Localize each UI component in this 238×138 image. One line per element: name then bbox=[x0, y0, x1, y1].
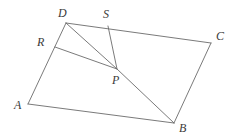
vertex-label-P: P bbox=[112, 74, 119, 86]
segment-cevian-RP bbox=[55, 47, 117, 69]
segment-side-BC bbox=[174, 43, 211, 123]
vertex-label-D: D bbox=[58, 7, 67, 19]
quadrilateral-sides bbox=[28, 23, 211, 123]
segment-cevian-PB bbox=[117, 69, 174, 123]
segment-side-AB bbox=[28, 104, 174, 123]
vertex-label-A: A bbox=[14, 99, 21, 111]
geometry-canvas bbox=[0, 0, 238, 138]
vertex-label-S: S bbox=[103, 8, 109, 20]
segment-cevian-DP bbox=[66, 23, 117, 69]
vertex-label-C: C bbox=[216, 30, 224, 42]
vertex-label-R: R bbox=[37, 36, 44, 48]
segment-side-DA bbox=[28, 23, 66, 104]
vertex-label-B: B bbox=[179, 122, 186, 134]
geometry-figure: A B C D P R S bbox=[0, 0, 238, 138]
segment-side-CD bbox=[66, 23, 211, 43]
